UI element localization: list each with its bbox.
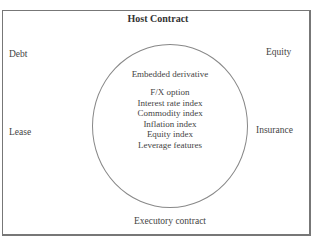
label-insurance: Insurance (256, 125, 293, 135)
label-executory-contract: Executory contract (0, 216, 316, 226)
embedded-derivative-content: Embedded derivative F/X option Interest … (92, 69, 248, 150)
label-equity: Equity (266, 47, 291, 57)
derivative-item: Inflation index (92, 119, 248, 130)
derivative-item: Leverage features (92, 140, 248, 151)
embedded-derivative-heading: Embedded derivative (92, 69, 248, 79)
derivative-item: Commodity index (92, 108, 248, 119)
label-debt: Debt (9, 49, 27, 59)
label-lease: Lease (9, 127, 31, 137)
derivative-item: F/X option (92, 87, 248, 98)
derivative-item: Equity index (92, 129, 248, 140)
derivative-item: Interest rate index (92, 98, 248, 109)
host-contract-title: Host Contract (0, 13, 316, 24)
